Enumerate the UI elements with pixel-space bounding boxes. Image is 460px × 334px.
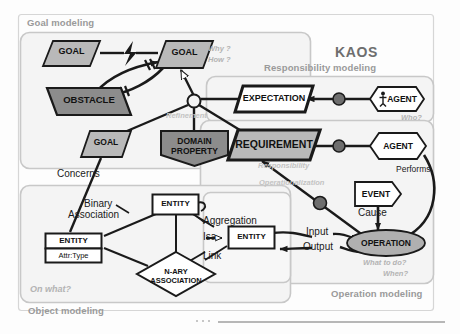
edge-label-association: Association [68,209,119,220]
node-entity-top[interactable] [153,195,199,215]
kaos-diagram: KAOS Goal modeling Responsibility modeli… [0,0,460,334]
node-goal-bottom[interactable] [81,131,131,157]
edge-label-refinement: Refinement [166,111,207,120]
node-expectation[interactable] [235,86,313,112]
footer-dot-2 [202,320,204,322]
node-requirement[interactable] [228,130,320,160]
edge-label-concerns: Concerns [57,168,100,179]
hint-why: Why ? [208,44,231,53]
page-title: KAOS [335,44,378,60]
responsibility-node-top [333,93,345,105]
node-goal-right[interactable] [156,41,213,68]
operationalization-node [314,197,327,210]
footer-dot-3 [208,320,210,322]
refinement-node [188,95,201,108]
edge-label-link: Link [203,250,221,261]
node-entity-attr[interactable] [46,234,102,263]
edge-label-cause: Cause [358,207,387,218]
panel-label-operation-modeling: Operation modeling [331,288,423,299]
node-operation[interactable] [347,230,425,256]
edge-label-aggregation: Aggregation [203,215,257,226]
node-goal-left[interactable] [43,41,100,66]
edge-label-responsibility: Responsibility [258,161,309,170]
hint-what-to-do: What to do? [363,258,406,267]
edge-label-input: Input [306,226,328,237]
edge-label-performs: Performs [396,164,430,174]
edge-label-isa: Isa [203,231,216,242]
edge-label-operationalization: Operationalization [259,178,324,187]
node-obstacle[interactable] [47,88,131,115]
responsibility-node-bottom [333,140,345,152]
hint-on-what: On what? [30,284,71,294]
node-event[interactable] [355,182,401,206]
hint-who: Who? [401,113,422,122]
node-entity-right[interactable] [229,227,275,249]
hint-when: When? [383,269,408,278]
hint-how: How ? [208,55,231,64]
edge-label-binary: Binary [84,198,112,209]
panel-label-responsibility-modeling: Responsibility modeling [264,62,376,73]
panel-label-goal-modeling: Goal modeling [27,17,94,28]
node-agent-bottom[interactable] [370,133,426,159]
edge-label-output: Output [303,241,333,252]
node-agent-top[interactable] [370,87,424,111]
footer-dot-1 [196,320,198,322]
panel-label-object-modeling: Object modeling [28,305,104,316]
